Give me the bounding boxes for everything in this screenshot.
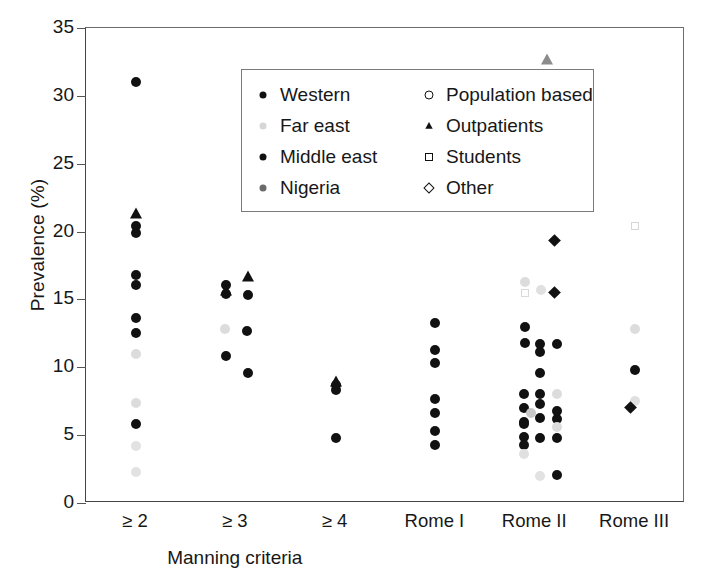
data-point bbox=[519, 440, 529, 450]
y-axis-label: Prevalence (%) bbox=[27, 145, 49, 345]
y-tick-label: 20 bbox=[18, 220, 74, 242]
y-tick-label: 0 bbox=[18, 491, 74, 513]
data-point bbox=[221, 351, 231, 361]
filled-circle-icon bbox=[256, 181, 270, 195]
data-point bbox=[536, 285, 546, 295]
data-point bbox=[555, 292, 564, 301]
data-point bbox=[520, 322, 530, 332]
y-tick-label: 30 bbox=[18, 84, 74, 106]
data-point bbox=[430, 394, 440, 404]
open-square-icon bbox=[422, 150, 436, 164]
data-point bbox=[541, 54, 553, 65]
data-point bbox=[430, 318, 440, 328]
data-point bbox=[535, 389, 545, 399]
filled-circle-icon bbox=[256, 119, 270, 133]
legend-item-students[interactable]: Students bbox=[422, 147, 597, 166]
data-point bbox=[131, 328, 141, 338]
filled-triangle-icon bbox=[422, 119, 436, 133]
legend-label: Population based bbox=[446, 85, 593, 104]
data-point bbox=[552, 470, 562, 480]
y-tick-label: 5 bbox=[18, 423, 74, 445]
data-point bbox=[131, 398, 141, 408]
legend-item-far-east[interactable]: Far east bbox=[256, 116, 422, 135]
data-point bbox=[131, 467, 141, 477]
legend-item-other[interactable]: Other bbox=[422, 178, 597, 197]
filled-circle-icon bbox=[256, 88, 270, 102]
y-tick-label: 25 bbox=[18, 152, 74, 174]
data-point bbox=[221, 289, 231, 299]
legend-item-outpatients[interactable]: Outpatients bbox=[422, 116, 597, 135]
data-point bbox=[631, 408, 640, 417]
data-point bbox=[535, 413, 545, 423]
y-tick-mark bbox=[77, 435, 86, 436]
legend-item-population-based[interactable]: Population based bbox=[422, 85, 597, 104]
legend-label: Nigeria bbox=[280, 178, 340, 197]
y-tick-mark bbox=[77, 503, 86, 504]
data-point bbox=[131, 313, 141, 323]
y-tick-label: 10 bbox=[18, 355, 74, 377]
data-point bbox=[243, 290, 253, 300]
data-point bbox=[552, 389, 562, 399]
data-point bbox=[430, 358, 440, 368]
y-tick-label: 35 bbox=[18, 16, 74, 38]
y-tick-label: 15 bbox=[18, 287, 74, 309]
y-tick-mark bbox=[77, 232, 86, 233]
data-point bbox=[535, 399, 545, 409]
y-tick-mark bbox=[77, 28, 86, 29]
open-diamond-icon bbox=[422, 181, 436, 195]
data-point bbox=[131, 270, 141, 280]
filled-circle-icon bbox=[256, 150, 270, 164]
data-point bbox=[130, 207, 142, 218]
legend-label: Outpatients bbox=[446, 116, 543, 135]
data-point bbox=[519, 389, 529, 399]
x-tick-label-3: ≥ 4 bbox=[322, 510, 348, 532]
figure-scatter-prevalence: Prevalence (%) 05101520253035 WesternPop… bbox=[0, 0, 701, 586]
data-point bbox=[220, 324, 230, 334]
data-point bbox=[243, 368, 253, 378]
data-point bbox=[430, 408, 440, 418]
data-point bbox=[520, 277, 530, 287]
x-axis-group-label: Manning criteria bbox=[167, 547, 302, 569]
data-point bbox=[521, 289, 529, 297]
data-point bbox=[131, 280, 141, 290]
legend-item-nigeria[interactable]: Nigeria bbox=[256, 178, 422, 197]
data-point bbox=[552, 339, 562, 349]
legend-item-middle-east[interactable]: Middle east bbox=[256, 147, 422, 166]
x-tick-label-5: Rome II bbox=[502, 510, 567, 532]
y-tick-mark bbox=[77, 96, 86, 97]
x-tick-label-6: Rome III bbox=[599, 510, 669, 532]
data-point bbox=[519, 449, 529, 459]
data-point bbox=[552, 433, 562, 443]
open-circle-icon bbox=[422, 88, 436, 102]
data-point bbox=[430, 426, 440, 436]
data-point bbox=[630, 324, 640, 334]
data-point bbox=[131, 419, 141, 429]
data-point bbox=[519, 419, 529, 429]
data-point bbox=[131, 77, 141, 87]
legend-grid: WesternPopulation basedFar eastOutpatien… bbox=[256, 79, 597, 203]
y-tick-mark bbox=[77, 367, 86, 368]
legend-label: Students bbox=[446, 147, 521, 166]
data-point bbox=[535, 368, 545, 378]
legend: WesternPopulation basedFar eastOutpatien… bbox=[241, 69, 594, 212]
plot-area: WesternPopulation basedFar eastOutpatien… bbox=[85, 27, 684, 502]
data-point bbox=[520, 338, 530, 348]
data-point bbox=[630, 365, 640, 375]
data-point bbox=[131, 349, 141, 359]
data-point bbox=[430, 440, 440, 450]
data-point bbox=[242, 326, 252, 336]
data-point bbox=[430, 345, 440, 355]
data-point bbox=[131, 441, 141, 451]
data-point bbox=[555, 241, 564, 250]
data-point bbox=[535, 347, 545, 357]
data-point bbox=[535, 433, 545, 443]
legend-label: Middle east bbox=[280, 147, 377, 166]
data-point bbox=[552, 422, 562, 432]
data-point bbox=[331, 385, 341, 395]
data-point bbox=[631, 222, 639, 230]
legend-label: Far east bbox=[280, 116, 350, 135]
legend-item-western[interactable]: Western bbox=[256, 85, 422, 104]
legend-label: Western bbox=[280, 85, 350, 104]
data-point bbox=[331, 433, 341, 443]
legend-label: Other bbox=[446, 178, 494, 197]
